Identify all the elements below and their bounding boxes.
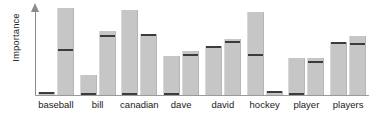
bar-column[interactable]: [330, 6, 347, 95]
bar-column[interactable]: [57, 6, 74, 95]
x-axis-tick-label: david: [202, 99, 244, 110]
x-axis-tick-label: hockey: [244, 99, 286, 110]
bar-value-marker: [39, 92, 54, 94]
bar-value-marker: [289, 93, 304, 95]
bar-group: [327, 6, 369, 95]
bar-column[interactable]: [140, 6, 157, 95]
bar-value-marker: [331, 42, 346, 44]
bar-value-marker: [308, 61, 323, 63]
bar[interactable]: [330, 42, 347, 95]
bar-value-marker: [81, 93, 96, 95]
bar-column[interactable]: [163, 6, 180, 95]
bar-column[interactable]: [182, 6, 199, 95]
bar-column[interactable]: [307, 6, 324, 95]
bar-column[interactable]: [121, 6, 138, 95]
bar-value-marker: [122, 93, 137, 95]
bar-column[interactable]: [266, 6, 283, 95]
bar-group: [286, 6, 328, 95]
bar-column[interactable]: [99, 6, 116, 95]
y-axis-label: Importance: [10, 3, 21, 73]
bar[interactable]: [57, 8, 74, 95]
bar[interactable]: [163, 56, 180, 95]
bar[interactable]: [307, 58, 324, 95]
bar[interactable]: [266, 91, 283, 95]
bar-value-marker: [225, 41, 240, 43]
bar-group: [35, 6, 77, 95]
bar-value-marker: [267, 91, 282, 93]
bar-group: [119, 6, 161, 95]
bar-value-marker: [183, 54, 198, 56]
bar-value-marker: [248, 54, 263, 56]
bar-chart: Importance baseballbillcanadiandavedavid…: [0, 0, 372, 122]
bar[interactable]: [121, 10, 138, 95]
bar[interactable]: [349, 36, 366, 95]
bar[interactable]: [247, 12, 264, 95]
x-axis-tick-label: canadian: [119, 99, 161, 110]
bar-value-marker: [350, 43, 365, 45]
bar[interactable]: [224, 39, 241, 95]
bar-column[interactable]: [247, 6, 264, 95]
bar-value-marker: [164, 93, 179, 95]
x-axis-tick-label: players: [327, 99, 369, 110]
x-axis-tick-label: dave: [160, 99, 202, 110]
bar[interactable]: [205, 46, 222, 95]
bar[interactable]: [288, 58, 305, 95]
bar-value-marker: [58, 49, 73, 51]
bar[interactable]: [80, 75, 97, 95]
plot-area: [35, 6, 369, 95]
bar-column[interactable]: [38, 6, 55, 95]
x-axis-tick-label: bill: [77, 99, 119, 110]
bar-group: [160, 6, 202, 95]
x-axis-tick-labels: baseballbillcanadiandavedavidhockeyplaye…: [35, 99, 369, 115]
bar-group: [77, 6, 119, 95]
bar-column[interactable]: [349, 6, 366, 95]
bar[interactable]: [38, 92, 55, 95]
x-axis-line: [35, 95, 369, 96]
x-axis-tick-label: baseball: [35, 99, 77, 110]
bar-group: [202, 6, 244, 95]
bar-column[interactable]: [288, 6, 305, 95]
bar-column[interactable]: [80, 6, 97, 95]
bar-column[interactable]: [205, 6, 222, 95]
bar[interactable]: [99, 31, 116, 95]
bar-group: [244, 6, 286, 95]
bar-value-marker: [206, 46, 221, 48]
bar-value-marker: [141, 34, 156, 36]
bar[interactable]: [182, 51, 199, 96]
bar-value-marker: [100, 35, 115, 37]
bar-column[interactable]: [224, 6, 241, 95]
x-axis-tick-label: player: [286, 99, 328, 110]
bar[interactable]: [140, 34, 157, 95]
